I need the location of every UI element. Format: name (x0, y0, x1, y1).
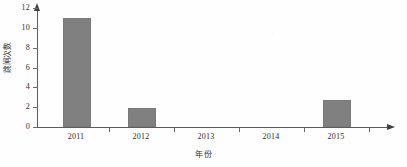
bar-2011 (63, 18, 91, 127)
x-axis-tick-label: 2013 (186, 133, 226, 141)
y-axis-tick-label: 0 (6, 123, 30, 131)
x-axis-line (37, 127, 388, 128)
x-axis-tick-label: 2015 (316, 133, 356, 141)
y-axis-tick (33, 127, 38, 128)
x-axis-tick (239, 128, 240, 132)
x-axis-tick (109, 128, 110, 132)
bar-2015 (323, 100, 351, 127)
y-axis-tick-label: 10 (6, 24, 30, 32)
x-axis-tick-label: 2011 (56, 133, 96, 141)
x-axis-tick (304, 128, 305, 132)
x-axis-title: 年份 (0, 148, 407, 159)
bar-2012 (128, 108, 156, 127)
x-axis-tick-label: 2012 (121, 133, 161, 141)
x-axis-tick-label: 2014 (251, 133, 291, 141)
y-axis-title: 跳闸次数 (1, 33, 12, 83)
x-axis-tick (369, 128, 370, 132)
y-axis-tick-label: 2 (6, 103, 30, 111)
y-axis-tick-label: 4 (6, 83, 30, 91)
x-axis-tick (174, 128, 175, 132)
bar-chart-figure: 024681012 20112012201320142015 跳闸次数 年份 (0, 0, 407, 167)
plot-area (38, 8, 396, 127)
y-axis-tick-label: 12 (6, 4, 30, 12)
